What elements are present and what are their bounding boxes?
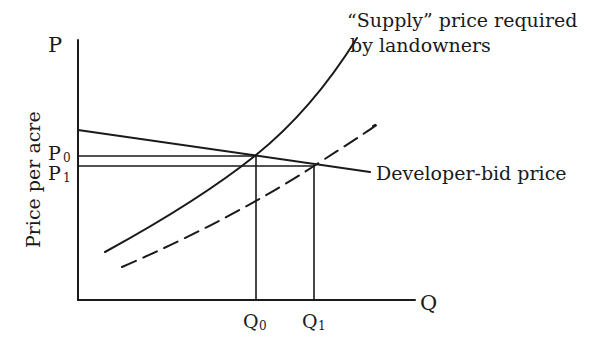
supply-label-line2: by landowners — [350, 34, 491, 56]
svg-text:0: 0 — [63, 151, 71, 165]
q1-label: Q 1 — [302, 310, 326, 333]
shifted-supply-curve — [122, 123, 379, 267]
supply-curve — [105, 38, 357, 252]
supply-label-line1: “Supply” price required — [347, 9, 577, 31]
svg-text:1: 1 — [63, 171, 71, 185]
q0-label: Q 0 — [243, 310, 267, 333]
svg-text:1: 1 — [318, 319, 326, 333]
supply-demand-diagram: P Q Price per acre P 0 P 1 Q 0 Q 1 “Supp… — [0, 0, 604, 339]
developer-bid-label: Developer-bid price — [376, 162, 567, 184]
y-axis-label: P — [48, 33, 62, 57]
y-axis-title: Price per acre — [22, 111, 44, 248]
svg-text:P: P — [48, 162, 61, 184]
svg-text:Q: Q — [243, 310, 259, 332]
p1-label: P 1 — [48, 162, 71, 185]
svg-text:Q: Q — [302, 310, 318, 332]
svg-text:0: 0 — [259, 319, 267, 333]
svg-text:P: P — [48, 142, 61, 164]
x-axis-label: Q — [420, 291, 437, 315]
